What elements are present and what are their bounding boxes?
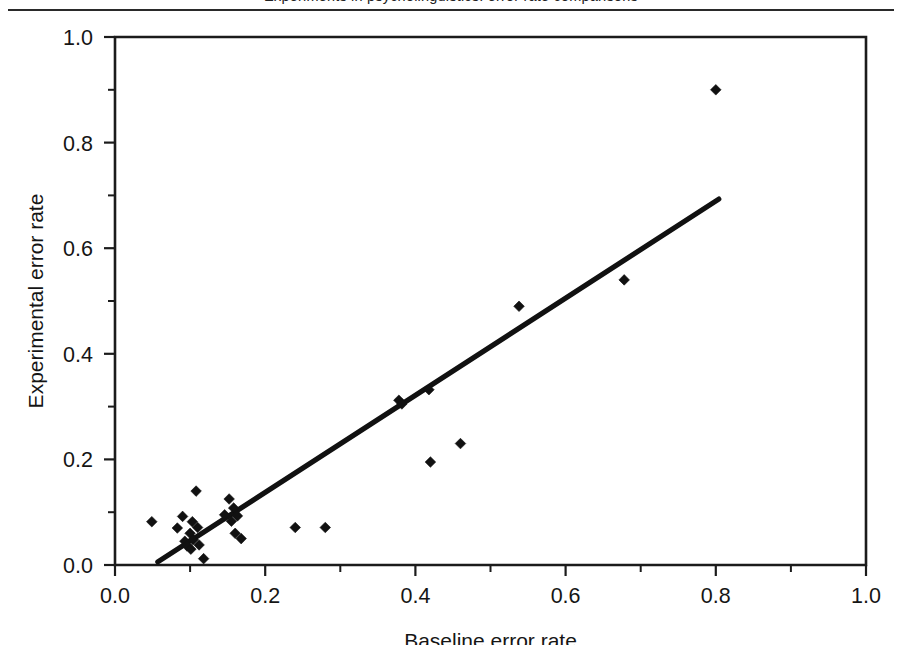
y-tick-label: 0.2 [63,448,93,472]
y-tick-label: 1.0 [63,26,93,50]
x-tick-label: 0.2 [250,584,280,608]
x-axis-title: Baseline error rate [404,629,577,645]
running-head-text: Experiments in psycholinguistics: error … [264,0,638,4]
data-point [172,523,183,534]
trendline [158,199,719,562]
y-tick-label: 0.6 [63,237,93,261]
axis-ticks [104,37,866,576]
x-tick-labels: 0.00.20.40.60.81.0 [100,584,881,608]
running-head: Experiments in psycholinguistics: error … [0,0,902,7]
data-point [619,275,630,286]
x-tick-label: 0.0 [100,584,130,608]
plot-frame [115,37,866,565]
y-axis-title: Experimental error rate [24,194,47,409]
data-point [455,438,466,449]
data-point [224,494,235,505]
y-tick-label: 0.8 [63,132,93,156]
data-point [425,457,436,468]
x-tick-label: 0.6 [551,584,581,608]
scatter-plot-figure: 0.00.20.40.60.81.0 0.00.20.40.60.81.0 Ba… [0,14,902,645]
header-rule [8,9,894,11]
plot-border [115,37,866,565]
data-point [191,486,202,497]
scatter-plot-svg: 0.00.20.40.60.81.0 0.00.20.40.60.81.0 Ba… [0,14,902,645]
data-point [711,85,722,96]
data-point [290,522,301,533]
regression-trendline [158,199,719,562]
y-tick-label: 0.0 [63,554,93,578]
x-tick-label: 1.0 [851,584,881,608]
x-tick-label: 0.8 [701,584,731,608]
data-point [320,522,331,533]
x-tick-label: 0.4 [400,584,430,608]
y-tick-label: 0.4 [63,343,93,367]
y-tick-labels: 0.00.20.40.60.81.0 [63,26,93,578]
data-point [146,516,157,527]
page-topmatter: Experiments in psycholinguistics: error … [0,0,902,14]
data-point [198,553,209,564]
data-point [177,511,188,522]
data-points [146,85,721,564]
data-point [514,301,525,312]
